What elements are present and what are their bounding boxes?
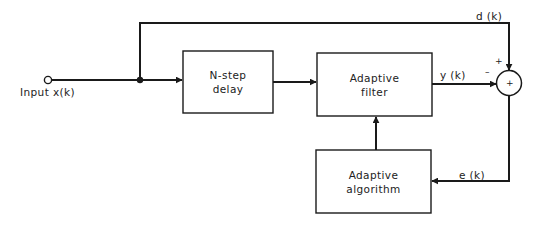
input-terminal-icon (44, 76, 51, 83)
algorithm-block-line2: algorithm (346, 182, 400, 196)
summing-center-symbol: + (506, 78, 514, 88)
filter-block: Adaptive filter (317, 53, 432, 116)
output-signal-label: y (k) (440, 68, 466, 82)
delay-block: N-step delay (183, 51, 273, 113)
algorithm-block: Adaptive algorithm (316, 150, 431, 213)
error-signal-label: e (k) (459, 168, 485, 182)
filter-block-line1: Adaptive (350, 71, 400, 85)
filter-block-line2: filter (361, 85, 388, 99)
delay-block-line2: delay (213, 82, 244, 96)
algorithm-block-line1: Adaptive (349, 168, 399, 182)
diagram-wires (0, 0, 543, 227)
input-label: Input x(k) (20, 85, 75, 99)
plus-sign-label: + (495, 56, 503, 66)
minus-sign-label: – (485, 67, 490, 77)
delay-block-line1: N-step (210, 68, 247, 82)
desired-signal-label: d (k) (476, 9, 502, 23)
adaptive-filter-diagram: Input x(k) N-step delay Adaptive filter … (0, 0, 543, 227)
